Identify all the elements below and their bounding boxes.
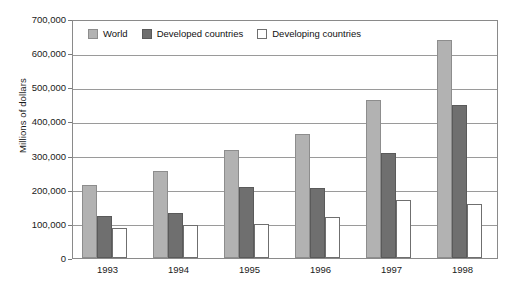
bar	[295, 134, 310, 258]
bar	[97, 216, 112, 258]
plot-area	[72, 20, 498, 259]
y-axis-title: Millions of dollars	[17, 46, 28, 186]
bar	[183, 225, 198, 258]
legend-item: Developed countries	[142, 28, 244, 39]
bar	[153, 171, 168, 258]
chart-legend: WorldDeveloped countriesDeveloping count…	[88, 28, 361, 39]
x-tick-label: 1996	[285, 264, 356, 275]
legend-swatch-developed	[142, 29, 152, 39]
bar	[366, 100, 381, 258]
bar	[254, 224, 269, 258]
x-tick-label: 1994	[143, 264, 214, 275]
bar-group	[82, 19, 127, 258]
bar-group	[366, 19, 411, 258]
x-tick-label: 1997	[356, 264, 427, 275]
bar	[168, 213, 183, 258]
legend-item: World	[88, 28, 128, 39]
bar	[239, 187, 254, 258]
x-tick-label: 1998	[427, 264, 498, 275]
legend-label: Developing countries	[272, 28, 361, 39]
bars-layer	[73, 21, 497, 258]
bar	[396, 200, 411, 258]
y-tick-mark	[68, 259, 72, 260]
bar	[82, 185, 97, 258]
bar	[381, 153, 396, 258]
bar	[310, 188, 325, 258]
legend-swatch-world	[88, 29, 98, 39]
bar-group	[437, 19, 482, 258]
bar-chart: Millions of dollars 0100,000200,000300,0…	[0, 0, 508, 293]
bar	[452, 105, 467, 258]
bar-group	[295, 19, 340, 258]
legend-label: Developed countries	[157, 28, 244, 39]
bar-group	[153, 19, 198, 258]
x-tick-label: 1995	[214, 264, 285, 275]
bar	[224, 150, 239, 258]
bar	[112, 228, 127, 258]
bar	[467, 204, 482, 258]
legend-swatch-developing	[257, 29, 267, 39]
x-tick-label: 1993	[72, 264, 143, 275]
bar-group	[224, 19, 269, 258]
legend-item: Developing countries	[257, 28, 361, 39]
legend-label: World	[103, 28, 128, 39]
bar	[437, 40, 452, 258]
bar	[325, 217, 340, 258]
